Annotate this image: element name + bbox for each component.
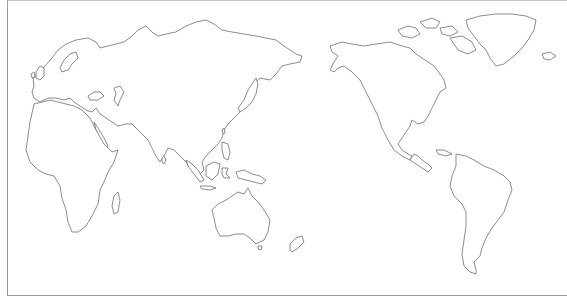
cuba-landmass[interactable] xyxy=(436,150,452,156)
java-landmass[interactable] xyxy=(200,186,216,190)
tasmania-landmass[interactable] xyxy=(258,246,262,250)
philippines-landmass[interactable] xyxy=(222,142,230,160)
iceland-east-landmass[interactable] xyxy=(542,52,556,60)
arctic-archipelago-landmass[interactable] xyxy=(398,26,420,38)
baffin-island-landmass[interactable] xyxy=(450,36,476,54)
arctic-island-3[interactable] xyxy=(440,26,458,36)
australia-landmass[interactable] xyxy=(212,188,270,244)
central-america-landmass[interactable] xyxy=(410,154,432,172)
arctic-island-2[interactable] xyxy=(420,18,440,28)
sulawesi-landmass[interactable] xyxy=(222,168,230,178)
south-america-landmass[interactable] xyxy=(450,154,512,274)
ireland-landmass[interactable] xyxy=(31,72,35,78)
madagascar-landmass[interactable] xyxy=(112,192,120,214)
sri-lanka-landmass[interactable] xyxy=(162,156,166,164)
new-guinea-landmass[interactable] xyxy=(236,170,266,184)
new-zealand-landmass[interactable] xyxy=(290,236,304,252)
borneo-landmass[interactable] xyxy=(206,162,220,180)
north-america-landmass[interactable] xyxy=(330,42,446,160)
africa-landmass[interactable] xyxy=(26,100,118,232)
greenland-landmass[interactable] xyxy=(466,14,536,66)
